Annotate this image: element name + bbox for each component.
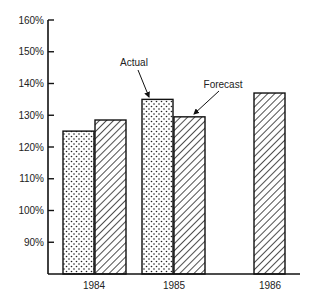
y-tick-label: 90% (24, 237, 44, 248)
bars (63, 93, 285, 274)
y-tick-label: 160% (18, 15, 44, 26)
y-tick-label: 130% (18, 110, 44, 121)
annotation-forecast: Forecast (204, 79, 243, 90)
y-tick-label: 100% (18, 205, 44, 216)
x-tick-label: 1985 (163, 280, 186, 291)
annotation-actual: Actual (120, 57, 148, 68)
arrow-icon (194, 91, 219, 114)
y-tick-label: 150% (18, 46, 44, 57)
x-tick-label: 1984 (83, 280, 106, 291)
bar-forecast-1984 (95, 120, 126, 274)
y-tick-label: 110% (19, 173, 44, 184)
bar-forecast-1985 (174, 117, 205, 274)
x-axis: 198419851986 (48, 274, 300, 291)
bar-forecast-1986 (254, 93, 285, 274)
bar-actual-1984 (63, 131, 94, 274)
bar-actual-1985 (142, 99, 173, 274)
y-tick-label: 140% (18, 78, 44, 89)
x-tick-label: 1986 (259, 280, 282, 291)
y-axis: 90%100%110%120%130%140%150%160% (18, 15, 54, 275)
arrow-icon (138, 70, 149, 97)
y-tick-label: 120% (18, 142, 44, 153)
annotations: ActualForecast (120, 57, 243, 114)
bar-chart: 90%100%110%120%130%140%150%160% 19841985… (0, 0, 322, 300)
